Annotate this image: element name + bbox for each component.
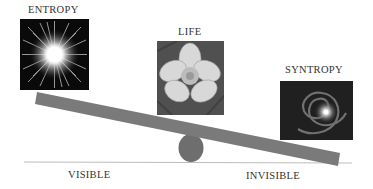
invisible-label: INVISIBLE <box>246 170 300 181</box>
seesaw-diagram: ENTROPY <box>0 0 373 189</box>
visible-label: VISIBLE <box>68 169 110 180</box>
seesaw-graphic <box>0 0 373 189</box>
pivot <box>179 134 204 162</box>
ground-line <box>24 162 352 163</box>
